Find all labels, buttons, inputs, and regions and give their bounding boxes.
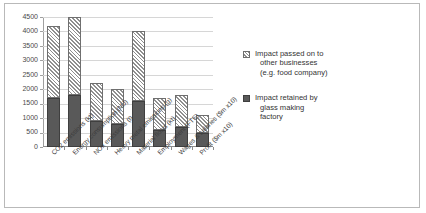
x-tick-mark: [149, 147, 150, 150]
bar-group[interactable]: [47, 17, 60, 147]
x-tick-mark: [192, 147, 193, 150]
y-tick-mark: [40, 133, 43, 134]
legend-label-line: other businesses: [255, 58, 415, 67]
bar-segment-passed-on[interactable]: [47, 26, 60, 98]
y-tick-label: 1000: [22, 114, 38, 121]
x-tick-mark: [171, 147, 172, 150]
y-tick-label: 4500: [22, 13, 38, 20]
legend-item-label: Impact retained by glass making factory: [255, 93, 415, 121]
legend-label-line: glass making: [255, 103, 415, 112]
y-tick-label: 2000: [22, 85, 38, 92]
bar-segment-retained[interactable]: [111, 124, 124, 147]
y-tick-label: 3000: [22, 56, 38, 63]
bar-segment-passed-on[interactable]: [196, 115, 209, 132]
solid-swatch-icon: [243, 95, 250, 102]
legend-label-line: Impact passed on to: [255, 49, 415, 58]
y-tick-label: 2500: [22, 71, 38, 78]
y-axis-labels: 4500 4000 3500 3000 2500 2000 1500 1000 …: [5, 4, 41, 164]
bar-segment-retained[interactable]: [90, 121, 103, 147]
bar-segment-retained[interactable]: [175, 127, 188, 147]
bar-segment-passed-on[interactable]: [175, 95, 188, 127]
bar-segment-retained[interactable]: [47, 98, 60, 147]
bar-segment-passed-on[interactable]: [68, 17, 81, 95]
bar-segment-retained[interactable]: [68, 95, 81, 147]
y-tick-mark: [40, 147, 43, 148]
x-tick-mark: [86, 147, 87, 150]
y-tick-label: 1500: [22, 99, 38, 106]
y-tick-label: 4000: [22, 27, 38, 34]
bar-segment-passed-on[interactable]: [111, 89, 124, 124]
bar-segment-passed-on[interactable]: [90, 83, 103, 121]
y-tick-mark: [40, 75, 43, 76]
bar-segment-passed-on[interactable]: [132, 31, 145, 100]
legend-label-line: (e.g. food company): [255, 68, 415, 77]
y-tick-mark: [40, 89, 43, 90]
y-axis-line: [43, 17, 44, 147]
bar-group[interactable]: [111, 17, 124, 147]
bar-segment-retained[interactable]: [132, 101, 145, 147]
chart-frame: 4500 4000 3500 3000 2500 2000 1500 1000 …: [4, 3, 420, 208]
y-tick-mark: [40, 46, 43, 47]
bar-group[interactable]: [68, 17, 81, 147]
chart-screenshot: 4500 4000 3500 3000 2500 2000 1500 1000 …: [0, 0, 426, 213]
y-tick-mark: [40, 104, 43, 105]
bar-group[interactable]: [175, 17, 188, 147]
x-tick-mark: [213, 147, 214, 150]
plot-area: [43, 17, 213, 147]
hatched-swatch-icon: [243, 51, 250, 58]
legend-item-impact-retained[interactable]: Impact retained by glass making factory: [243, 93, 415, 121]
x-tick-mark: [128, 147, 129, 150]
x-tick-mark: [64, 147, 65, 150]
legend-label-line: Impact retained by: [255, 93, 415, 102]
y-tick-mark: [40, 60, 43, 61]
legend-item-label: Impact passed on to other businesses (e.…: [255, 49, 415, 77]
legend-item-impact-passed-on[interactable]: Impact passed on to other businesses (e.…: [243, 49, 415, 77]
bar-segment-retained[interactable]: [153, 130, 166, 147]
y-tick-mark: [40, 31, 43, 32]
bar-group[interactable]: [90, 17, 103, 147]
chart-legend: Impact passed on to other businesses (e.…: [243, 49, 415, 137]
bar-group[interactable]: [153, 17, 166, 147]
y-tick-label: 500: [26, 128, 38, 135]
bar-segment-passed-on[interactable]: [153, 98, 166, 130]
bar-group[interactable]: [132, 17, 145, 147]
y-tick-mark: [40, 118, 43, 119]
bar-group[interactable]: [196, 17, 209, 147]
y-tick-label: 3500: [22, 42, 38, 49]
y-tick-mark: [40, 17, 43, 18]
y-tick-label: 0: [34, 143, 38, 150]
legend-label-line: factory: [255, 112, 415, 121]
bar-segment-retained[interactable]: [196, 133, 209, 147]
x-tick-mark: [107, 147, 108, 150]
